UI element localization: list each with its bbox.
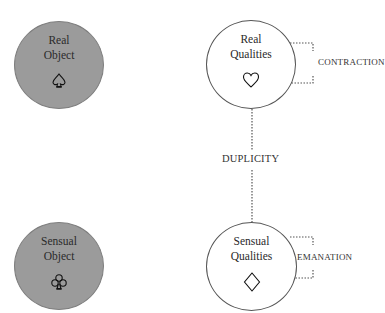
label-line-1: Real — [15, 33, 103, 48]
real-qualities-node: Real Qualities — [206, 20, 296, 109]
real-object-node: Real Object — [14, 21, 104, 109]
sensual-object-node: Sensual Object — [14, 222, 104, 310]
diamond-outline-icon — [207, 272, 296, 296]
sensual-qualities-label: Sensual Qualities — [207, 234, 296, 264]
label-line-2: Object — [15, 249, 103, 264]
heart-outline-icon — [207, 71, 295, 93]
label-line-1: Real — [207, 32, 295, 47]
sensual-object-label: Sensual Object — [15, 234, 103, 264]
label-line-2: Qualities — [207, 249, 296, 264]
label-line-2: Qualities — [207, 47, 295, 62]
real-qualities-label: Real Qualities — [207, 32, 295, 62]
real-object-label: Real Object — [15, 33, 103, 63]
club-outline-icon — [15, 273, 103, 295]
contraction-label: CONTRACTION — [318, 57, 385, 67]
emanation-label: EMANATION — [297, 252, 352, 262]
label-line-2: Object — [15, 48, 103, 63]
label-line-1: Sensual — [207, 234, 296, 249]
sensual-qualities-node: Sensual Qualities — [206, 222, 297, 311]
label-line-1: Sensual — [15, 234, 103, 249]
spade-outline-icon — [15, 73, 103, 93]
duplicity-label: DUPLICITY — [222, 153, 279, 164]
